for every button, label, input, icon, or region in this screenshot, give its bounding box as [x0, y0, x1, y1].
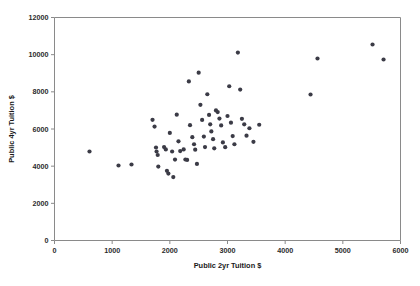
- data-point: [202, 135, 206, 139]
- data-point: [185, 158, 189, 162]
- x-tick-label: 3000: [220, 246, 236, 255]
- data-point: [154, 145, 158, 149]
- data-point: [198, 103, 202, 107]
- data-point: [197, 71, 201, 75]
- y-tick-label: 10000: [29, 50, 49, 59]
- x-tick-label: 4000: [277, 246, 293, 255]
- data-point: [370, 42, 374, 46]
- data-point: [152, 124, 156, 128]
- data-point: [209, 129, 213, 133]
- data-point: [170, 149, 174, 153]
- data-point: [175, 113, 179, 117]
- plot-svg: 0100020003000400050006000 02000400060008…: [0, 0, 420, 286]
- data-point: [193, 148, 197, 152]
- data-point: [156, 164, 160, 168]
- x-tick-label: 2000: [162, 246, 178, 255]
- data-point: [190, 135, 194, 139]
- data-point: [173, 157, 177, 161]
- data-point: [195, 162, 199, 166]
- x-tick-label: 5000: [335, 246, 351, 255]
- x-tick-label: 1000: [104, 246, 120, 255]
- data-point: [176, 139, 180, 143]
- data-point: [257, 123, 261, 127]
- x-tick-label: 0: [53, 246, 57, 255]
- data-point: [242, 122, 246, 126]
- data-point: [156, 153, 160, 157]
- x-tick-label: 6000: [393, 246, 409, 255]
- data-point: [182, 147, 186, 151]
- data-point: [87, 149, 91, 153]
- data-point: [231, 134, 235, 138]
- data-point: [217, 116, 221, 120]
- data-point: [205, 92, 209, 96]
- data-point: [238, 88, 242, 92]
- data-point: [171, 175, 175, 179]
- data-point: [227, 84, 231, 88]
- y-tick-label: 12000: [29, 13, 49, 22]
- data-point: [381, 57, 385, 61]
- data-point: [315, 56, 319, 60]
- data-point: [219, 123, 223, 127]
- data-point: [168, 131, 172, 135]
- chart-background: [0, 0, 420, 286]
- data-point: [223, 145, 227, 149]
- data-point: [116, 163, 120, 167]
- data-point: [164, 147, 168, 151]
- x-axis-title: Public 2yr Tuition $: [194, 261, 262, 270]
- y-tick-label: 6000: [33, 125, 49, 134]
- data-point: [221, 140, 225, 144]
- data-point: [129, 162, 133, 166]
- data-point: [207, 113, 211, 117]
- data-point: [188, 123, 192, 127]
- data-point: [216, 110, 220, 114]
- data-point: [150, 118, 154, 122]
- data-point: [203, 145, 207, 149]
- scatter-chart: 0100020003000400050006000 02000400060008…: [0, 0, 420, 286]
- y-tick-label: 2000: [33, 199, 49, 208]
- data-point: [192, 142, 196, 146]
- data-point: [308, 92, 312, 96]
- data-point: [232, 142, 236, 146]
- data-point: [229, 121, 233, 125]
- data-point: [225, 114, 229, 118]
- data-point: [200, 118, 204, 122]
- y-tick-label: 4000: [33, 162, 49, 171]
- data-point: [251, 140, 255, 144]
- data-point: [187, 79, 191, 83]
- data-point: [247, 126, 251, 130]
- data-point: [236, 51, 240, 55]
- data-point: [166, 172, 170, 176]
- data-point: [211, 137, 215, 141]
- y-axis-title: Public 4yr Tuition $: [7, 95, 16, 163]
- data-point: [208, 122, 212, 126]
- data-point: [244, 134, 248, 138]
- data-point: [240, 117, 244, 121]
- y-tick-label: 8000: [33, 87, 49, 96]
- y-tick-label: 0: [45, 236, 49, 245]
- data-point: [212, 146, 216, 150]
